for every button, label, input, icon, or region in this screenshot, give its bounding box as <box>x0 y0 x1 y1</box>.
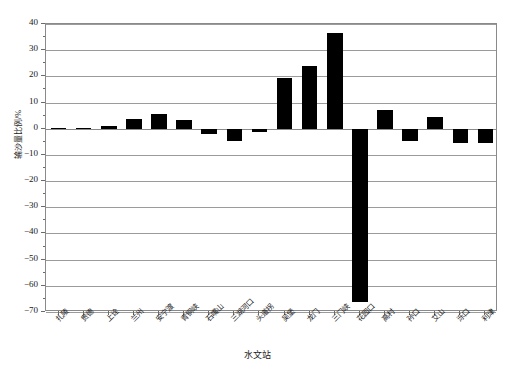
y-tick-label: 30 <box>0 44 38 53</box>
y-tick-minor <box>43 88 45 89</box>
bar <box>126 119 142 128</box>
y-tick-mark <box>41 259 45 260</box>
y-tick-mark <box>41 180 45 181</box>
y-tick-label: −70 <box>0 306 38 315</box>
y-tick-label: −40 <box>0 227 38 236</box>
y-tick-label: −10 <box>0 149 38 158</box>
bar <box>453 129 469 143</box>
y-tick-label: 20 <box>0 70 38 79</box>
y-tick-minor <box>43 141 45 142</box>
gridline <box>46 233 496 234</box>
bar <box>302 66 318 129</box>
bar <box>478 129 494 143</box>
gridline <box>46 76 496 77</box>
bar <box>151 114 167 129</box>
bar <box>352 129 368 302</box>
x-axis-title: 水文站 <box>0 350 514 360</box>
y-tick-mark <box>41 128 45 129</box>
y-tick-minor <box>43 272 45 273</box>
y-tick-minor <box>43 36 45 37</box>
bar <box>101 126 117 128</box>
bar <box>51 128 67 130</box>
y-tick-mark <box>41 311 45 312</box>
plot-area <box>45 23 497 311</box>
y-tick-minor <box>43 62 45 63</box>
bar <box>227 129 243 142</box>
y-tick-label: 0 <box>0 123 38 132</box>
y-tick-label: −20 <box>0 175 38 184</box>
y-tick-mark <box>41 232 45 233</box>
y-tick-mark <box>41 75 45 76</box>
y-tick-mark <box>41 23 45 24</box>
bar <box>201 129 217 134</box>
gridline <box>46 50 496 51</box>
y-tick-label: 40 <box>0 18 38 27</box>
gridline <box>46 24 496 25</box>
y-tick-minor <box>43 298 45 299</box>
gridline <box>46 155 496 156</box>
y-tick-label: −50 <box>0 254 38 263</box>
gridline <box>46 103 496 104</box>
bar <box>76 128 92 130</box>
bar-chart: 输沙量比例/% 403020100−10−20−30−40−50−60−70 扎… <box>0 0 514 373</box>
y-tick-label: 10 <box>0 97 38 106</box>
y-tick-mark <box>41 49 45 50</box>
gridline <box>46 181 496 182</box>
y-tick-minor <box>43 115 45 116</box>
y-tick-minor <box>43 193 45 194</box>
gridline <box>46 207 496 208</box>
y-tick-minor <box>43 246 45 247</box>
y-tick-mark <box>41 206 45 207</box>
bar <box>402 129 418 142</box>
bar <box>327 33 343 129</box>
gridline <box>46 260 496 261</box>
bar <box>377 110 393 128</box>
bar <box>176 120 192 128</box>
y-tick-label: −30 <box>0 201 38 210</box>
bar <box>427 117 443 129</box>
y-tick-minor <box>43 167 45 168</box>
y-tick-mark <box>41 285 45 286</box>
zero-line <box>46 129 496 130</box>
gridline <box>46 286 496 287</box>
y-tick-minor <box>43 219 45 220</box>
y-tick-mark <box>41 102 45 103</box>
y-tick-mark <box>41 154 45 155</box>
y-tick-label: −60 <box>0 280 38 289</box>
bar <box>277 78 293 128</box>
bar <box>252 129 268 132</box>
